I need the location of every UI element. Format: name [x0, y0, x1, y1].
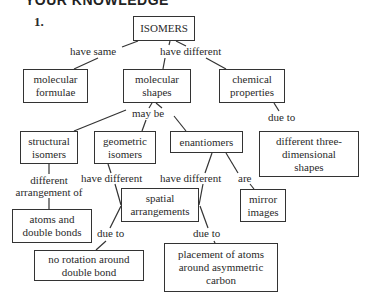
link-different-arrangement-of: different arrangement of — [8, 174, 90, 198]
node-label: mirror images — [243, 193, 283, 219]
link-due-to-chem: due to — [268, 111, 295, 124]
node-label: atoms and double bonds — [17, 213, 87, 239]
link-may-be: may be — [132, 107, 164, 120]
link-have-different-top: have different — [160, 45, 221, 58]
node-label: spatial arrangements — [122, 192, 198, 218]
node-label: geometric isomers — [95, 135, 155, 161]
node-structural-isomers: structural isomers — [20, 131, 78, 164]
node-spatial-arrangements: spatial arrangements — [121, 188, 199, 222]
node-molecular-shapes: molecular shapes — [123, 69, 191, 103]
node-enantiomers: enantiomers — [170, 131, 243, 153]
node-label: no rotation around double bond — [41, 253, 137, 279]
node-different-3d-shapes: different three-dimensional shapes — [259, 131, 359, 177]
link-are: are — [238, 172, 251, 185]
node-geometric-isomers: geometric isomers — [94, 131, 156, 164]
node-label: molecular shapes — [124, 73, 190, 99]
node-label: ISOMERS — [140, 22, 188, 35]
node-mirror-images: mirror images — [240, 189, 286, 222]
node-label: placement of atoms around asymmetric car… — [172, 248, 270, 287]
node-label: structural isomers — [21, 135, 77, 161]
node-label: chemical properties — [220, 73, 284, 99]
node-no-rotation: no rotation around double bond — [34, 250, 144, 281]
link-have-different-enan: have different — [160, 172, 221, 185]
node-molecular-formulae: molecular formulae — [23, 69, 88, 103]
node-label: molecular formulae — [24, 73, 87, 99]
node-placement-atoms: placement of atoms around asymmetric car… — [164, 243, 278, 292]
node-isomers: ISOMERS — [133, 16, 195, 41]
link-due-to-right: due to — [193, 227, 220, 240]
link-due-to-left: due to — [97, 227, 124, 240]
node-atoms-double-bonds: atoms and double bonds — [12, 209, 92, 243]
node-label: different three-dimensional shapes — [269, 135, 349, 174]
node-label: enantiomers — [180, 136, 234, 149]
link-label: different arrangement of — [16, 174, 83, 198]
node-chemical-properties: chemical properties — [219, 69, 285, 103]
link-have-same: have same — [70, 45, 116, 58]
link-have-different-geo: have different — [81, 172, 142, 185]
